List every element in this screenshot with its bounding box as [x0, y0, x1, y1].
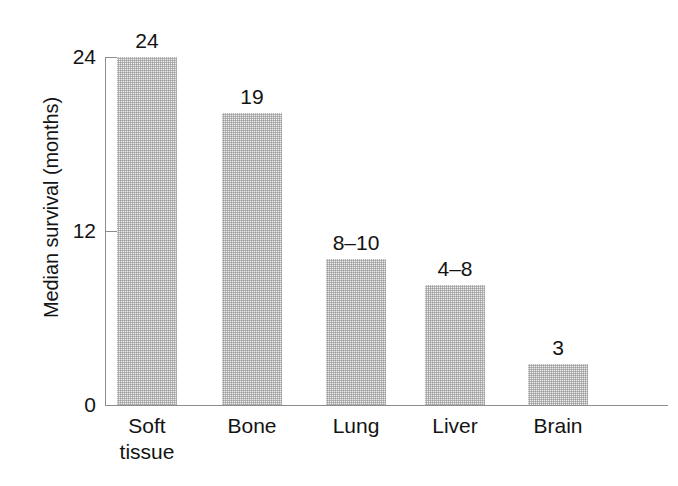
y-tick-label: 0 — [84, 393, 96, 417]
plot-area: 24 12 0 24 Soft tissue 19 Bone 8–10 Lung — [105, 57, 670, 405]
y-axis-title: Median survival (months) — [40, 43, 63, 373]
x-axis-category-label: Brain — [533, 413, 582, 439]
bar-lung — [326, 259, 386, 405]
bar-chart-figure: Median survival (months) 24 12 0 24 Soft… — [0, 0, 678, 486]
x-axis-category-label: Soft tissue — [120, 413, 175, 465]
bar-value-label: 4–8 — [437, 257, 472, 281]
y-tick-label: 24 — [73, 45, 96, 69]
y-tick-label: 12 — [73, 219, 96, 243]
bar-value-label: 19 — [240, 85, 263, 109]
bar-brain — [528, 364, 588, 405]
y-tick-mark — [106, 231, 117, 232]
bar-value-label: 8–10 — [333, 231, 380, 255]
y-tick-mark — [106, 57, 117, 58]
x-axis-category-label: Bone — [227, 413, 276, 439]
x-axis-line — [105, 405, 668, 406]
bar-value-label: 24 — [135, 29, 158, 53]
x-axis-category-label: Liver — [432, 413, 478, 439]
x-axis-category-label: Lung — [333, 413, 380, 439]
bar-liver — [425, 285, 485, 405]
bar-bone — [222, 113, 282, 405]
bar-value-label: 3 — [552, 336, 564, 360]
bar-soft-tissue — [117, 57, 177, 405]
